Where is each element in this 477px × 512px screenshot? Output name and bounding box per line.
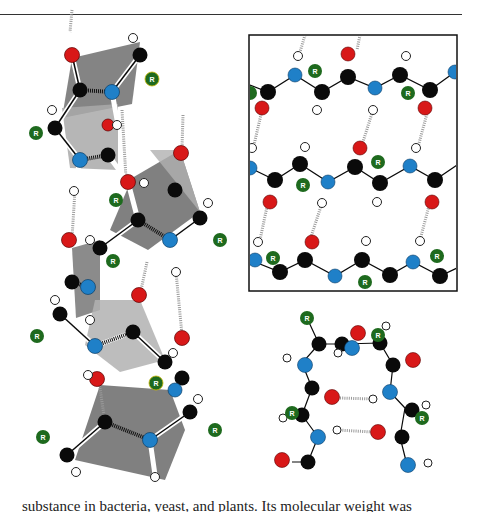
svg-text:R: R [40, 434, 45, 441]
svg-text:R: R [300, 182, 305, 189]
svg-text:R: R [149, 76, 154, 83]
protein-structure-figure: R R R R R R R R R [0, 0, 477, 490]
alpha-helix-panel: R R R R R R R R R [29, 10, 227, 482]
svg-text:R: R [419, 415, 424, 422]
svg-text:R: R [312, 68, 317, 75]
beta-turn-panel: R R R R [275, 311, 433, 473]
svg-text:R: R [110, 258, 115, 265]
svg-text:R: R [217, 237, 222, 244]
svg-text:R: R [405, 90, 410, 97]
svg-text:R: R [113, 197, 118, 204]
svg-text:R: R [289, 410, 294, 417]
svg-text:R: R [434, 253, 439, 260]
svg-text:R: R [153, 380, 158, 387]
svg-text:R: R [34, 333, 39, 340]
svg-text:R: R [375, 332, 380, 339]
svg-text:R: R [362, 279, 367, 286]
body-text-line: substance in bacteria, yeast, and plants… [22, 495, 472, 512]
svg-text:R: R [375, 159, 380, 166]
svg-text:R: R [212, 427, 217, 434]
svg-text:R: R [270, 255, 275, 262]
svg-text:R: R [33, 130, 38, 137]
beta-sheet-panel: R R R R R R R [243, 35, 462, 291]
svg-text:R: R [304, 315, 309, 322]
